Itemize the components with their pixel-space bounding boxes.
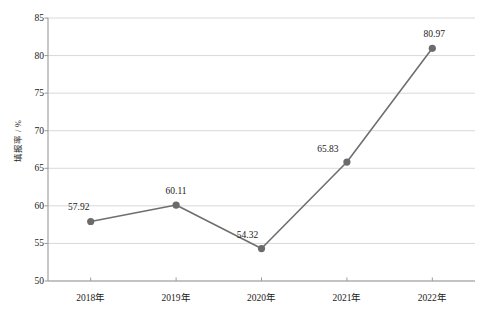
line-chart: 填报率 / % 5055606570758085 57.9260.1154.32… — [0, 0, 484, 310]
x-tick-label: 2019年 — [162, 290, 191, 304]
x-axis-tick-labels: 2018年2019年2020年2021年2022年 — [0, 0, 484, 310]
x-tick-label: 2022年 — [418, 290, 447, 304]
x-tick-label: 2021年 — [332, 290, 361, 304]
x-tick-label: 2020年 — [247, 290, 276, 304]
x-tick-label: 2018年 — [76, 290, 105, 304]
